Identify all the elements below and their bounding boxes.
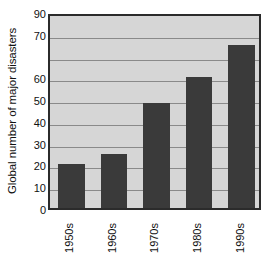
bar-1960s — [101, 154, 127, 208]
bar-1990s — [228, 45, 254, 208]
y-axis-tick-label: 0 — [22, 205, 46, 216]
y-axis-tick-label: 10 — [22, 183, 46, 194]
y-axis-tick-label: 60 — [22, 74, 46, 85]
plot-area — [48, 14, 261, 210]
y-axis-tick-label: 70 — [22, 30, 46, 41]
y-axis-tick-label: 50 — [22, 96, 46, 107]
x-axis-tick-label-text: 1950s — [63, 223, 75, 253]
x-axis-tick-label-text: 1960s — [106, 223, 118, 253]
x-axis-tick-label-text: 1970s — [148, 223, 160, 253]
x-axis-tick-label-text: 1990s — [234, 223, 246, 253]
x-axis-tick-label: 1980s — [176, 212, 219, 270]
x-axis-tick-label: 1960s — [91, 212, 134, 270]
x-axis-tick-labels: 1950s1960s1970s1980s1990s — [48, 212, 261, 273]
x-axis-tick-label: 1970s — [133, 212, 176, 270]
x-axis-tick-label-text: 1980s — [191, 223, 203, 253]
y-axis-title: Global number of major disasters — [0, 0, 24, 222]
y-axis-title-label: Global number of major disasters — [6, 28, 18, 194]
y-axis-tick-label: 40 — [22, 117, 46, 128]
bar-1950s — [58, 164, 84, 208]
bar-1980s — [186, 77, 212, 208]
y-axis-tick-label: 20 — [22, 161, 46, 172]
x-axis-tick-label: 1990s — [218, 212, 261, 270]
y-axis-tick-label: 90 — [22, 9, 46, 20]
bar-chart: Global number of major disasters 9070605… — [0, 0, 269, 273]
x-axis-tick-label: 1950s — [48, 212, 91, 270]
bars-group — [50, 16, 259, 208]
bar-1970s — [143, 103, 169, 208]
y-axis-tick-labels: 90706050403020100 — [22, 14, 46, 210]
y-axis-tick-label: 30 — [22, 139, 46, 150]
